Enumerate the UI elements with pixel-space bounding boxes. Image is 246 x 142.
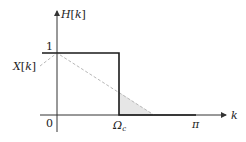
level-one-label: 1 bbox=[46, 40, 53, 53]
x-axis-label: k bbox=[231, 109, 238, 122]
y-axis-label: H[k] bbox=[60, 8, 86, 21]
pi-label: π bbox=[191, 118, 200, 131]
origin-label: 0 bbox=[46, 117, 53, 130]
signal-label: X[k] bbox=[12, 60, 36, 73]
filter-response bbox=[42, 53, 196, 115]
lowpass-diagram: H[k] X[k] 1 0 Ωc π k bbox=[0, 0, 246, 142]
cutoff-label: Ωc bbox=[112, 119, 126, 133]
